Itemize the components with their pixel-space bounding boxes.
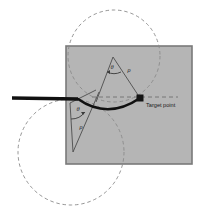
upper-rho-label: ρ [126, 66, 130, 73]
target-point-label: Target point [146, 102, 176, 108]
incoming-straight-path [12, 98, 78, 99]
lower-rho-label: ρ [78, 123, 82, 130]
figure-container: θ ρ θ ρ Target point [0, 0, 206, 211]
geometry-diagram-svg: θ ρ θ ρ Target point [0, 0, 206, 211]
target-point-marker [137, 95, 144, 102]
